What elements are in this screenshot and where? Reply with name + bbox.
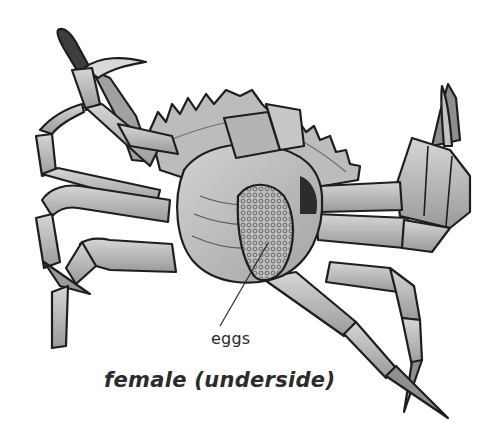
figure-caption: female (underside) (104, 368, 335, 392)
eggs-label: eggs (211, 329, 250, 348)
left-claw (57, 29, 178, 166)
